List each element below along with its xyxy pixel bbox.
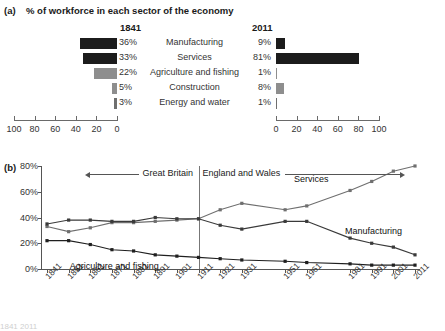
y-tick	[38, 166, 42, 167]
y-tick-label: 40%	[8, 213, 38, 223]
data-point-marker	[348, 262, 351, 265]
panel-b-line-chart: (b) 0%20%40%60%80% 184118511861187118811…	[0, 146, 445, 331]
arrow-right-head	[400, 172, 405, 178]
axis-tick-label: 40	[71, 124, 81, 134]
y-axis-labels: 0%20%40%60%80%	[8, 166, 38, 269]
axis-tick	[117, 116, 118, 120]
bar-left-track	[14, 98, 117, 109]
bar-2011	[276, 83, 284, 94]
series-label-manufacturing: Manufacturing	[345, 226, 402, 236]
axis-tick	[96, 116, 97, 120]
axis-tick	[317, 116, 318, 120]
bar-right-track	[276, 53, 379, 64]
axis-tick	[76, 116, 77, 120]
percent-label-2011: 8%	[249, 82, 271, 92]
y-tick-label: 0%	[8, 264, 38, 274]
bar-1841	[112, 83, 117, 94]
data-point-marker	[219, 224, 222, 227]
bar-1841	[94, 68, 117, 79]
percent-label-2011: 1%	[249, 67, 271, 77]
axis-tick-label: 60	[50, 124, 60, 134]
year-header-left: 1841	[120, 22, 141, 33]
bar-1841	[114, 98, 117, 109]
data-point-marker	[284, 220, 287, 223]
panel-a-title: % of workforce in each sector of the eco…	[26, 5, 233, 16]
bar-1841	[83, 53, 117, 64]
data-point-marker	[45, 239, 48, 242]
data-point-marker	[154, 220, 157, 223]
data-point-marker	[219, 257, 222, 260]
data-point-marker	[348, 189, 351, 192]
data-point-marker	[305, 261, 308, 264]
data-point-marker	[392, 264, 395, 267]
bar-row: 22%Agriculture and fishing1%	[0, 66, 445, 81]
axis-tick-label: 80	[30, 124, 40, 134]
data-point-marker	[45, 222, 48, 225]
data-point-marker	[67, 218, 70, 221]
percent-label-1841: 33%	[119, 52, 141, 62]
percent-label-2011: 81%	[249, 52, 271, 62]
data-point-marker	[413, 164, 416, 167]
data-point-marker	[154, 253, 157, 256]
axis-tick-label: 0	[273, 124, 278, 134]
y-tick-label: 80%	[8, 161, 38, 171]
data-point-marker	[284, 260, 287, 263]
axis-tick-label: 20	[91, 124, 101, 134]
bar-left-track	[14, 53, 117, 64]
bar-rows-container: 36%Manufacturing9%33%Services81%22%Agric…	[0, 36, 445, 111]
data-point-marker	[305, 204, 308, 207]
data-point-marker	[284, 208, 287, 211]
data-point-marker	[240, 258, 243, 261]
bar-left-track	[14, 68, 117, 79]
data-point-marker	[175, 255, 178, 258]
axis-tick	[276, 116, 277, 120]
sector-name: Manufacturing	[141, 37, 248, 47]
y-tick	[38, 192, 42, 193]
bar-row: 36%Manufacturing9%	[0, 36, 445, 51]
axis-line-right	[276, 120, 380, 121]
percent-label-2011: 9%	[249, 37, 271, 47]
y-tick	[38, 218, 42, 219]
data-point-marker	[132, 249, 135, 252]
bar-row: 3%Energy and water1%	[0, 96, 445, 111]
panel-a-bar-chart: (a) % of workforce in each sector of the…	[0, 0, 445, 146]
cutoff-caption-fragment: 1841 2011	[0, 322, 445, 331]
bar-right-track	[276, 98, 379, 109]
y-tick	[38, 243, 42, 244]
data-point-marker	[240, 202, 243, 205]
data-point-marker	[348, 237, 351, 240]
data-point-marker	[392, 246, 395, 249]
axis-tick-label: 0	[114, 124, 119, 134]
arrow-left-line	[90, 174, 139, 175]
data-point-marker	[305, 220, 308, 223]
annotation-england-and-wales: England and Wales	[203, 168, 281, 178]
sector-name: Construction	[141, 82, 248, 92]
axis-tick	[338, 116, 339, 120]
plot-area	[41, 166, 420, 270]
axis-tick	[358, 116, 359, 120]
axis-tick-label: 100	[6, 124, 21, 134]
data-point-marker	[67, 239, 70, 242]
data-point-marker	[370, 180, 373, 183]
series-label-agriculture: Agriculture and fishing	[70, 261, 159, 271]
bar-right-track	[276, 38, 379, 49]
data-point-marker	[197, 217, 200, 220]
data-point-marker	[132, 220, 135, 223]
bar-right-track	[276, 68, 379, 79]
axis-line-left	[14, 120, 118, 121]
axis-tick-label: 100	[371, 124, 386, 134]
bar-right-track	[276, 83, 379, 94]
data-point-marker	[175, 217, 178, 220]
axis-tick	[297, 116, 298, 120]
bar-1841	[80, 38, 117, 49]
data-point-marker	[154, 216, 157, 219]
bar-2011	[276, 38, 285, 49]
data-point-marker	[110, 220, 113, 223]
sector-name: Agriculture and fishing	[141, 67, 248, 77]
annotation-great-britain: Great Britain	[143, 168, 194, 178]
data-point-marker	[413, 264, 416, 267]
bar-left-track	[14, 83, 117, 94]
axis-tick-label: 60	[333, 124, 343, 134]
percent-label-1841: 22%	[119, 67, 141, 77]
arrow-left-head	[85, 172, 90, 178]
